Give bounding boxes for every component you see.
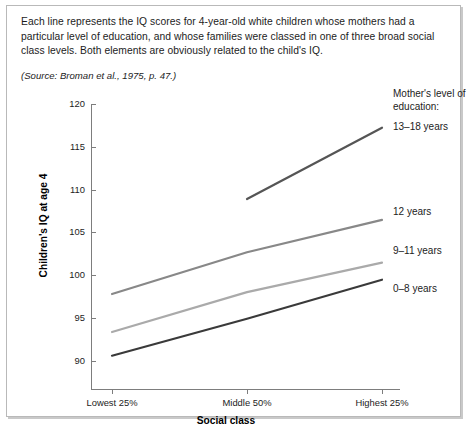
series-label-13-18-years: 13–18 years <box>393 121 448 132</box>
figure-panel: Each line represents the IQ scores for 4… <box>6 5 461 417</box>
legend-title: Mother's level of education: <box>393 87 471 114</box>
series-label-9-11-years: 9–11 years <box>393 245 442 256</box>
series-line <box>112 263 382 332</box>
series-label-12-years: 12 years <box>393 206 431 217</box>
chart-plot-area: 120 115 110 105 100 95 90 Lowest 25% Mid… <box>7 6 462 418</box>
series-line <box>247 128 382 199</box>
series-line <box>112 220 382 294</box>
series-label-0-8-years: 0–8 years <box>393 283 437 294</box>
